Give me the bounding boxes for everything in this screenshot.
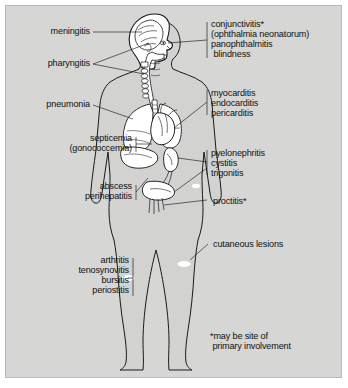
label-tenosynovitis: tenosynovitis <box>10 265 129 275</box>
label-pneumonia: pneumonia <box>18 99 90 109</box>
label-cutaneous-lesions: cutaneous lesions <box>213 239 283 249</box>
label-pericarditis: pericarditis <box>211 108 253 118</box>
label-perihepatitis: perihepatitis <box>14 191 132 201</box>
footnote-line-1: *may be site of <box>210 331 268 341</box>
label-cystitis: cystitis <box>211 158 237 168</box>
label-bursitis: bursitis <box>10 275 129 285</box>
label-trigonitis: trigonitis <box>211 168 243 178</box>
label-endocarditis: endocarditis <box>211 98 258 108</box>
label-periostitis: periostitis <box>10 285 129 295</box>
label-conjunctivitis: conjunctivitis* <box>211 19 264 29</box>
label-proctitis: proctitis* <box>213 196 246 206</box>
label-pharyngitis: pharyngitis <box>18 58 90 68</box>
label-meningitis: meningitis <box>18 26 90 36</box>
label-ophthalmia-neonatorum: (ophthalmia neonatorum) <box>211 29 309 39</box>
label-abscess: abscess <box>14 181 132 191</box>
kidney <box>164 148 179 172</box>
label-arthritis: arthritis <box>10 255 129 265</box>
footnote-line-2: primary involvement <box>210 341 291 351</box>
label-pyelonephritis: pyelonephritis <box>211 148 265 158</box>
label-gonococcemia: (gonococcemia) <box>14 143 132 153</box>
label-septicemia: septicemia <box>14 133 132 143</box>
label-myocarditis: myocarditis <box>211 88 255 98</box>
label-panophthalmitis: panophthalmitis <box>211 39 272 49</box>
label-blindness: blindness <box>211 49 250 59</box>
